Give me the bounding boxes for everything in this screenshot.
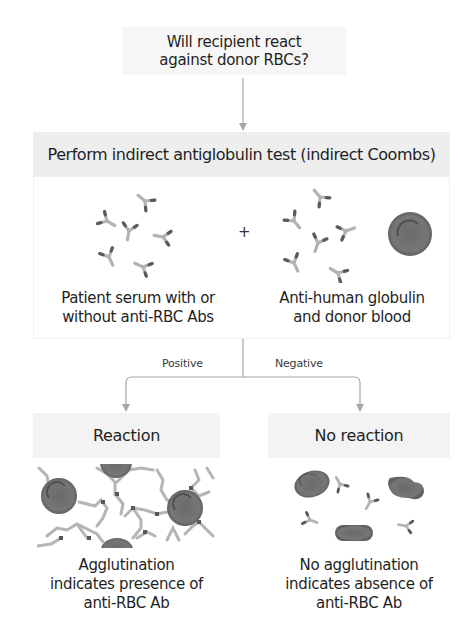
reaction-box: Reaction xyxy=(33,413,220,458)
caption-line: No agglutination xyxy=(268,556,450,575)
caption-line: and donor blood xyxy=(262,308,442,327)
down-arrow-icon xyxy=(356,404,364,412)
patient-serum-antibodies-icon xyxy=(85,185,185,280)
no-reaction-box: No reaction xyxy=(268,413,450,458)
caption-line: indicates presence of xyxy=(33,575,220,594)
down-arrow-icon xyxy=(122,404,130,412)
positive-label: Positive xyxy=(162,357,203,370)
caption-line: indicates absence of xyxy=(268,575,450,594)
caption-line: anti-RBC Ab xyxy=(268,594,450,613)
no-reaction-caption: No agglutination indicates absence of an… xyxy=(268,556,450,613)
reaction-title: Reaction xyxy=(93,426,160,445)
no-reaction-title: No reaction xyxy=(315,426,404,445)
caption-line: Patient serum with or xyxy=(40,289,236,308)
caption-line: Anti-human globulin xyxy=(262,289,442,308)
anti-human-globulin-antibodies-icon xyxy=(270,183,370,283)
down-arrow-icon xyxy=(236,78,250,132)
donor-red-blood-cell-icon xyxy=(386,210,434,258)
agglutination-illustration xyxy=(37,464,215,548)
caption-line: anti-RBC Ab xyxy=(33,594,220,613)
question-box: Will recipient react against donor RBCs? xyxy=(122,27,346,75)
caption-line: without anti-RBC Abs xyxy=(40,308,236,327)
branch-arrows xyxy=(115,339,370,414)
patient-serum-caption: Patient serum with or without anti-RBC A… xyxy=(40,289,236,327)
plus-sign: + xyxy=(238,223,251,241)
no-agglutination-illustration xyxy=(290,468,430,548)
anti-human-globulin-caption: Anti-human globulin and donor blood xyxy=(262,289,442,327)
question-text: Will recipient react against donor RBCs? xyxy=(149,33,319,69)
negative-label: Negative xyxy=(275,357,323,370)
test-title: Perform indirect antiglobulin test (indi… xyxy=(48,145,436,164)
test-title-box: Perform indirect antiglobulin test (indi… xyxy=(33,132,450,177)
caption-line: Agglutination xyxy=(33,556,220,575)
reaction-caption: Agglutination indicates presence of anti… xyxy=(33,556,220,613)
